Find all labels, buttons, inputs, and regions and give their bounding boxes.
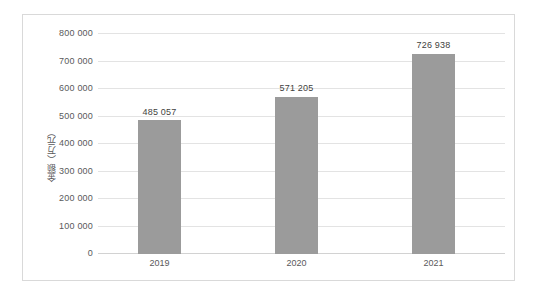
bar-2021[interactable] [412, 54, 455, 254]
y-tick-label-400000: 400 000 [59, 138, 93, 148]
gridline-800000 [98, 33, 505, 34]
y-tick-label-800000: 800 000 [59, 28, 93, 38]
x-axis-tick-labels: 2019 2020 2021 [0, 258, 538, 272]
bar-value-2020: 571 205 [280, 83, 314, 93]
y-tick-label-300000: 300 000 [59, 166, 93, 176]
bar-chart-figure: 金额（万元） 0 100 000 200 000 300 000 400 000… [0, 0, 538, 295]
y-tick-label-200000: 200 000 [59, 193, 93, 203]
y-tick-label-100000: 100 000 [59, 221, 93, 231]
bar-value-2021: 726 938 [417, 40, 451, 50]
y-tick-label-600000: 600 000 [59, 83, 93, 93]
y-tick-label-700000: 700 000 [59, 56, 93, 66]
x-tick-label-2020: 2020 [286, 258, 306, 268]
x-tick-label-2019: 2019 [149, 258, 169, 268]
plot-area: 485 057 571 205 726 938 [98, 33, 505, 254]
y-tick-label-0: 0 [88, 248, 93, 258]
chart-frame: 金额（万元） 0 100 000 200 000 300 000 400 000… [22, 14, 515, 281]
y-tick-label-500000: 500 000 [59, 111, 93, 121]
bar-2020[interactable] [275, 97, 318, 254]
y-axis-tick-labels: 0 100 000 200 000 300 000 400 000 500 00… [47, 33, 93, 254]
x-tick-label-2021: 2021 [423, 258, 443, 268]
bar-value-2019: 485 057 [143, 107, 177, 117]
bar-2019[interactable] [138, 120, 181, 254]
